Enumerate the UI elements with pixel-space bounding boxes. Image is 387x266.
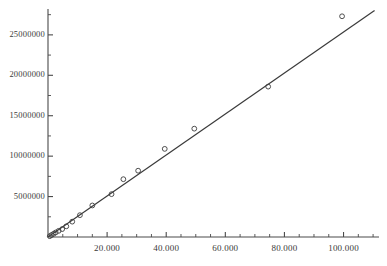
y-axis-tick-label: 15000000: [9, 110, 45, 120]
y-axis-tick-label: 10000000: [9, 150, 45, 160]
y-axis-ticks: [48, 15, 53, 217]
y-axis-tick-label: 20000000: [9, 69, 45, 79]
x-axis-tick-label: 80.000: [254, 243, 314, 253]
data-point: [162, 146, 167, 151]
x-axis-tick-label: 100.000: [314, 243, 374, 253]
data-point-markers: [47, 14, 344, 239]
x-axis-tick-label: 20.000: [77, 243, 137, 253]
x-axis-tick-label: 40.000: [136, 243, 196, 253]
x-axis-ticks: [63, 232, 373, 237]
data-point: [121, 177, 126, 182]
fit-line-group: [48, 11, 375, 237]
data-point: [136, 168, 141, 173]
data-point: [340, 14, 345, 19]
regression-line: [48, 11, 375, 237]
data-point: [192, 126, 197, 131]
y-axis-tick-label: 5000000: [14, 191, 45, 201]
scatter-plot-canvas: [0, 0, 387, 266]
y-axis-tick-label: 25000000: [9, 29, 45, 39]
x-axis-tick-label: 60.000: [195, 243, 255, 253]
chart-figure: 500000010000000150000002000000025000000 …: [0, 0, 387, 266]
